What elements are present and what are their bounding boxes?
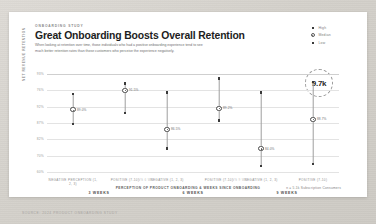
y-axis-tick: 93% [37,72,44,76]
x-axis-group-label: 9 WEEKS [276,191,297,195]
whisker-line [219,79,220,121]
gridline [47,139,339,140]
x-axis-group-label: 3 WEEKS [88,191,109,195]
median-value-label: 88.7% [317,117,327,121]
median-marker[interactable] [70,107,75,112]
square-icon [308,42,317,44]
low-marker [72,123,74,125]
whisker-line [167,93,168,149]
x-axis-label: NEGATIVE PERCEPTION (1, 2, 3) [47,178,99,187]
x-axis-caption: PERCEPTION OF PRODUCT ONBOARDING & WEEKS… [116,186,261,190]
low-marker [218,119,220,121]
x-axis-group-label: 6 WEEKS [182,191,203,195]
chart-card: ONBOARDING STUDY Great Onboarding Boosts… [9,12,367,197]
median-marker[interactable] [258,146,263,151]
gridline [47,172,339,173]
x-axis-label: POSITIVE (7-10) [287,178,339,182]
y-axis-tick: 82% [37,137,44,141]
gridline [47,123,339,124]
high-marker [260,91,262,93]
whisker-line [261,93,262,166]
low-marker [260,165,262,167]
x-axis-separator-label: vs 9 WK [214,178,266,182]
plot-area: 93%76%92%87%82%70%60%89.0%91.5%86.5%89.2… [47,74,339,172]
gridline [47,156,339,157]
high-marker [166,91,168,93]
y-axis-tick: 70% [37,154,44,158]
y-axis-tick: 76% [37,88,44,92]
y-axis-tick: 87% [37,121,44,125]
median-value-label: 89.0% [77,108,87,112]
gridline [47,107,339,108]
subtitle-text: When looking at retention over time, tho… [35,43,211,54]
whisker-line [313,82,314,164]
sample-size-note: n = 5.1k Subscription Consumers [286,186,341,190]
y-axis-title: NET REVENUE RETENTION [22,27,26,81]
legend-item-median[interactable]: Median [308,32,331,40]
median-marker[interactable] [216,106,221,111]
eyebrow-label: ONBOARDING STUDY [35,24,84,28]
x-axis-separator-label: vs 6 WK [120,178,172,182]
legend-label-high: High [318,26,326,30]
y-axis-tick: 92% [37,105,44,109]
legend-item-low[interactable]: Low [308,39,331,47]
low-marker [312,163,314,165]
median-marker[interactable] [122,88,127,93]
median-value-label: 91.5% [129,88,139,92]
low-marker [124,112,126,114]
high-marker [72,93,74,95]
page-background: ONBOARDING STUDY Great Onboarding Boosts… [0,0,376,224]
median-marker[interactable] [310,117,315,122]
legend-label-low: Low [318,41,325,45]
source-footer: SOURCE: 2024 PRODUCT ONBOARDING STUDY [22,211,118,215]
high-marker [312,81,314,83]
circle-icon [308,33,317,37]
legend-item-high[interactable]: High [308,24,331,32]
median-value-label: 84.0% [265,147,275,151]
legend-label-median: Median [318,33,331,37]
page-title: Great Onboarding Boosts Overall Retentio… [35,30,245,41]
gridline [47,90,339,91]
gridline [47,74,339,75]
high-marker [124,82,126,84]
square-icon [308,27,317,29]
median-value-label: 86.5% [171,127,181,131]
chart-legend: High Median Low [308,24,331,47]
y-axis-tick: 60% [37,170,44,174]
high-marker [218,77,220,79]
median-marker[interactable] [164,127,169,132]
median-value-label: 89.2% [223,106,233,110]
low-marker [166,147,168,149]
